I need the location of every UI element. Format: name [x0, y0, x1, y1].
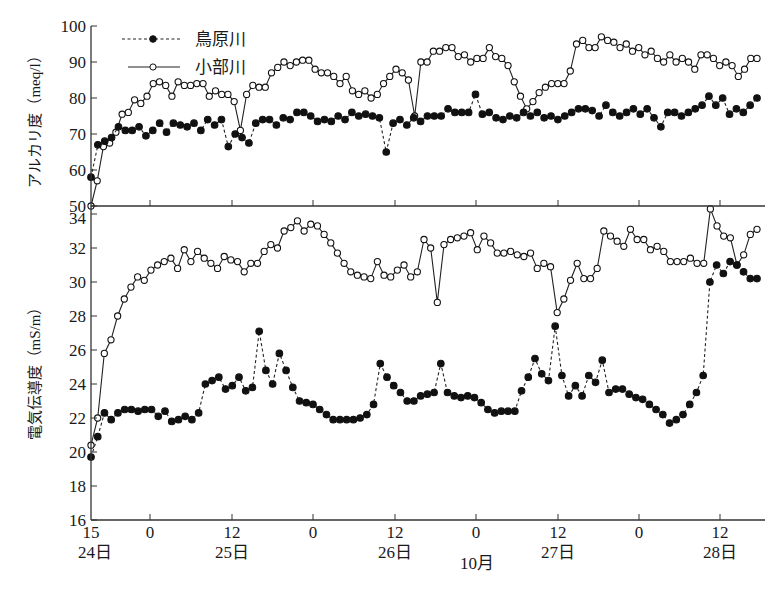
- obe-river-marker: [254, 260, 260, 266]
- y-tick-label: 30: [69, 273, 86, 292]
- x-day-label: 27日: [541, 543, 575, 562]
- alkalinity-panel: [88, 34, 761, 209]
- obe-river-marker: [747, 231, 753, 237]
- torihara-river-marker: [527, 113, 534, 120]
- obe-river-marker: [125, 109, 131, 115]
- torihara-river-marker: [451, 393, 458, 400]
- torihara-river-marker: [149, 127, 156, 134]
- obe-river-marker: [574, 260, 580, 266]
- y-tick-label: 70: [69, 125, 86, 144]
- torihara-river-marker: [623, 109, 630, 116]
- obe-river-marker: [614, 238, 620, 244]
- obe-river-marker: [561, 81, 567, 87]
- torihara-river-line: [91, 94, 757, 177]
- torihara-river-marker: [458, 109, 465, 116]
- obe-river-marker: [324, 70, 330, 76]
- obe-river-marker: [421, 236, 427, 242]
- torihara-river-marker: [184, 124, 191, 131]
- torihara-river-marker: [249, 384, 256, 391]
- obe-river-marker: [748, 55, 754, 61]
- torihara-river-marker: [491, 410, 498, 417]
- y-tick-label: 60: [69, 161, 86, 180]
- obe-river-marker: [501, 250, 507, 256]
- obe-river-marker: [661, 59, 667, 65]
- obe-river-marker: [294, 218, 300, 224]
- torihara-river-marker: [707, 279, 714, 286]
- obe-river-marker: [348, 269, 354, 275]
- obe-river-marker: [301, 228, 307, 234]
- obe-river-marker: [169, 93, 175, 99]
- x-tick-label: 0: [146, 523, 155, 542]
- torihara-river-marker: [700, 372, 707, 379]
- torihara-river-marker: [603, 102, 610, 109]
- torihara-river-marker: [404, 398, 411, 405]
- obe-river-marker: [594, 265, 600, 271]
- torihara-river-marker: [175, 416, 182, 423]
- torihara-river-marker: [486, 109, 493, 116]
- torihara-river-marker: [108, 416, 115, 423]
- torihara-river-marker: [287, 116, 294, 123]
- torihara-river-marker: [513, 115, 520, 122]
- obe-river-marker: [586, 45, 592, 51]
- torihara-river-marker: [357, 415, 364, 422]
- torihara-river-marker: [612, 386, 619, 393]
- obe-river-marker: [361, 274, 367, 280]
- obe-river-marker: [474, 55, 480, 61]
- obe-river-marker: [492, 54, 498, 60]
- torihara-river-marker: [162, 408, 169, 415]
- obe-river-marker: [507, 248, 513, 254]
- obe-river-marker: [454, 235, 460, 241]
- torihara-river-marker: [596, 113, 603, 120]
- obe-river-marker: [212, 88, 218, 94]
- torihara-river-marker: [95, 142, 102, 149]
- torihara-river-marker: [706, 93, 713, 100]
- obe-river-marker: [667, 52, 673, 58]
- obe-river-marker: [623, 41, 629, 47]
- obe-river-marker: [685, 59, 691, 65]
- torihara-river-marker: [383, 149, 390, 156]
- torihara-river-marker: [545, 377, 552, 384]
- torihara-river-marker: [417, 393, 424, 400]
- torihara-river-marker: [586, 372, 593, 379]
- y-tick-label: 24: [69, 375, 87, 394]
- obe-river-marker: [448, 236, 454, 242]
- torihara-river-marker: [552, 323, 559, 330]
- torihara-river-marker: [671, 109, 678, 116]
- obe-river-marker: [405, 77, 411, 83]
- obe-river-marker: [312, 66, 318, 72]
- obe-river-marker: [131, 97, 137, 103]
- obe-river-marker: [673, 59, 679, 65]
- obe-river-marker: [208, 260, 214, 266]
- torihara-river-marker: [713, 102, 720, 109]
- torihara-river-marker: [222, 386, 229, 393]
- torihara-river-marker: [328, 118, 335, 125]
- obe-river-marker: [754, 226, 760, 232]
- obe-river-marker: [306, 57, 312, 63]
- obe-river-marker: [418, 59, 424, 65]
- torihara-river-marker: [156, 120, 163, 127]
- torihara-river-marker: [294, 109, 301, 116]
- obe-river-marker: [514, 252, 520, 258]
- obe-river-marker: [605, 37, 611, 43]
- torihara-river-marker: [498, 408, 505, 415]
- torihara-river-marker: [747, 102, 754, 109]
- obe-river-marker: [704, 52, 710, 58]
- legend-label-obe: 小部川: [195, 58, 246, 77]
- obe-river-marker: [592, 45, 598, 51]
- torihara-river-marker: [121, 406, 128, 413]
- torihara-river-marker: [630, 106, 637, 113]
- x-tick-label: 0: [472, 523, 481, 542]
- obe-river-marker: [408, 274, 414, 280]
- obe-river-marker: [275, 64, 281, 70]
- obe-river-marker: [194, 248, 200, 254]
- obe-river-marker: [261, 248, 267, 254]
- torihara-river-marker: [534, 109, 541, 116]
- torihara-river-marker: [136, 124, 143, 131]
- torihara-river-marker: [390, 120, 397, 127]
- torihara-river-marker: [740, 269, 747, 276]
- obe-river-marker: [694, 260, 700, 266]
- obe-river-marker: [219, 91, 225, 97]
- torihara-river-marker: [377, 360, 384, 367]
- torihara-river-marker: [310, 401, 317, 408]
- obe-river-marker: [368, 95, 374, 101]
